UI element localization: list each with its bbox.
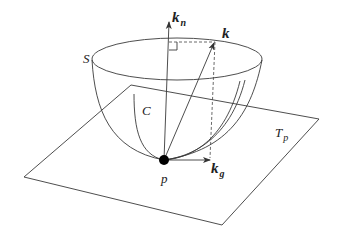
label-normal-curvature: kn: [172, 10, 186, 25]
geodesic-curvature-subscript: g: [220, 168, 225, 179]
tangent-plane-subscript: p: [283, 132, 288, 143]
right-angle-mark: [169, 42, 177, 50]
normal-curvature-symbol: k: [172, 9, 180, 25]
curvature-diagram: [0, 0, 338, 240]
surface-side-right: [164, 60, 262, 160]
label-geodesic-curvature: kg: [211, 161, 225, 176]
normal-curvature-subscript: n: [181, 17, 187, 28]
label-point-p: p: [161, 172, 168, 185]
point-p: [159, 155, 169, 165]
tangent-plane: [24, 85, 319, 225]
curve-c: [134, 80, 245, 160]
tangent-plane-symbol: T: [275, 125, 282, 140]
surface-side-left: [92, 60, 164, 160]
label-curvature-vector: k: [222, 26, 230, 41]
label-curve-c: C: [142, 104, 151, 117]
geodesic-curvature-symbol: k: [211, 160, 219, 176]
label-surface-s: S: [83, 52, 90, 65]
label-tangent-plane: Tp: [275, 126, 288, 139]
